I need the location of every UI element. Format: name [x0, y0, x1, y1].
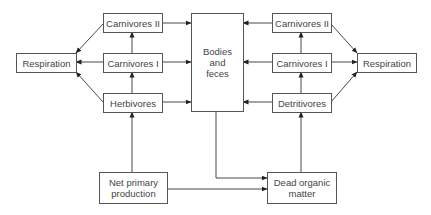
carnivores-i-right-label: Carnivores I — [276, 58, 327, 69]
net-primary-line-1: Net primary — [109, 177, 158, 188]
detritivores-node: Detritivores — [272, 93, 332, 113]
carnivores-i-left-label: Carnivores I — [107, 58, 158, 69]
detritivores-label: Detritivores — [278, 98, 326, 109]
carnivores-ii-right-label: Carnivores II — [275, 18, 329, 29]
carnivores-ii-left-label: Carnivores II — [106, 18, 160, 29]
bodies-line-3: feces — [206, 68, 229, 79]
dead-organic-line-1: Dead organic — [274, 177, 331, 188]
herbivores-node: Herbivores — [103, 93, 163, 113]
carnivores-ii-right-node: Carnivores II — [272, 13, 332, 33]
bodies-line-2: and — [210, 57, 226, 68]
dead-organic-line-2: matter — [289, 188, 316, 199]
dead-organic-matter-node: Dead organic matter — [267, 172, 337, 204]
respiration-right-node: Respiration — [357, 53, 417, 73]
net-primary-production-node: Net primary production — [99, 172, 168, 204]
carnivores-ii-left-node: Carnivores II — [103, 13, 163, 33]
respiration-right-label: Respiration — [363, 58, 411, 69]
respiration-left-node: Respiration — [16, 53, 77, 73]
carnivores-i-left-node: Carnivores I — [103, 53, 163, 73]
net-primary-line-2: production — [111, 188, 155, 199]
bodies-and-feces-node: Bodies and feces — [191, 13, 244, 112]
herbivores-label: Herbivores — [110, 98, 156, 109]
respiration-left-label: Respiration — [22, 58, 70, 69]
carnivores-i-right-node: Carnivores I — [272, 53, 332, 73]
bodies-line-1: Bodies — [203, 46, 232, 57]
